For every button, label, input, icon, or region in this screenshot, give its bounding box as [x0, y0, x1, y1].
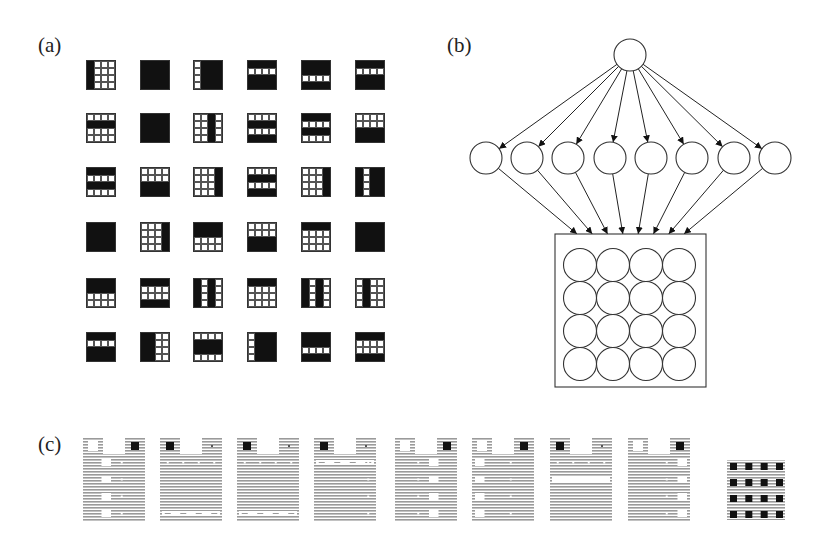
- panel-c-weight-images: [0, 0, 831, 548]
- bias-dot: [745, 479, 752, 486]
- bias-dot: [776, 479, 783, 486]
- bias-dot: [730, 479, 737, 486]
- weight-image-body: [83, 454, 145, 522]
- bias-dot: [730, 495, 737, 502]
- bias-dot: [761, 463, 768, 470]
- weight-image-body: [550, 454, 612, 522]
- bias-dot: [776, 463, 783, 470]
- bias-dot: [776, 511, 783, 518]
- bias-dot: [745, 463, 752, 470]
- bias-dot: [776, 495, 783, 502]
- bias-dot: [730, 511, 737, 518]
- bias-dot: [761, 511, 768, 518]
- bias-dot: [761, 479, 768, 486]
- bias-dot: [745, 511, 752, 518]
- weight-image-body: [395, 454, 457, 522]
- bias-dot: [745, 495, 752, 502]
- bias-dot: [761, 495, 768, 502]
- bias-dot: [730, 463, 737, 470]
